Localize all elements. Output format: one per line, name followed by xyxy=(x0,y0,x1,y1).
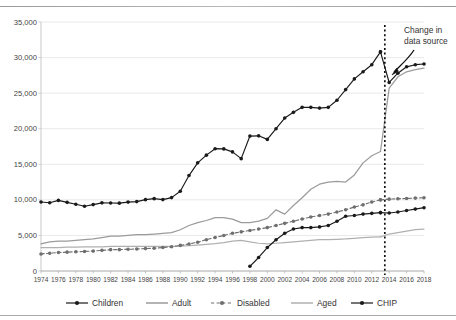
legend-label-disabled[interactable]: Disabled xyxy=(237,298,270,308)
x-tick-label: 2018 xyxy=(417,276,432,283)
series-marker-disabled xyxy=(126,248,130,252)
series-marker-disabled xyxy=(74,250,78,254)
series-marker-chip xyxy=(326,224,330,228)
y-tick-label: 10,000 xyxy=(14,195,37,204)
series-marker-children xyxy=(335,98,339,102)
series-marker-disabled xyxy=(135,247,139,251)
series-marker-children xyxy=(57,199,61,203)
y-tick-label: 20,000 xyxy=(14,124,37,133)
series-marker-disabled xyxy=(292,219,296,223)
series-marker-disabled xyxy=(187,242,191,246)
series-marker-chip xyxy=(335,219,339,223)
series-marker-children xyxy=(118,201,122,205)
series-marker-disabled xyxy=(300,217,304,221)
series-marker-disabled xyxy=(353,205,357,209)
x-tick-label: 1984 xyxy=(121,276,136,283)
x-tick-label: 1990 xyxy=(173,276,188,283)
x-tick-label: 2012 xyxy=(364,276,379,283)
line-chart-canvas: 05,00010,00015,00020,00025,00030,00035,0… xyxy=(0,0,456,320)
series-marker-children xyxy=(161,198,165,202)
series-marker-disabled xyxy=(335,210,339,214)
series-marker-children xyxy=(300,106,304,110)
series-marker-children xyxy=(274,127,278,131)
series-marker-children xyxy=(387,81,391,85)
series-marker-children xyxy=(178,189,182,193)
series-marker-disabled xyxy=(283,222,287,226)
series-marker-children xyxy=(414,63,418,67)
y-tick-label: 25,000 xyxy=(14,89,37,98)
series-marker-children xyxy=(48,201,52,205)
series-marker-chip xyxy=(318,225,322,229)
series-line-disabled xyxy=(41,200,380,254)
series-marker-children xyxy=(292,111,296,115)
legend-swatch-marker-children xyxy=(75,301,79,305)
series-marker-children xyxy=(248,134,252,138)
series-marker-disabled xyxy=(414,196,418,200)
y-tick-label: 5,000 xyxy=(18,231,37,240)
legend-swatch-marker-disabled xyxy=(220,301,224,305)
x-tick-label: 1986 xyxy=(138,276,153,283)
top-divider-rule xyxy=(0,6,456,7)
x-tick-label: 1976 xyxy=(51,276,66,283)
series-line-adult xyxy=(380,68,424,151)
series-marker-children xyxy=(257,134,261,138)
series-marker-disabled xyxy=(48,251,52,255)
x-tick-label: 1978 xyxy=(68,276,83,283)
series-marker-disabled xyxy=(344,208,348,212)
series-marker-chip xyxy=(379,211,383,215)
series-marker-disabled xyxy=(318,214,322,218)
series-marker-children xyxy=(213,147,217,151)
y-tick-label: 0 xyxy=(33,267,37,276)
series-marker-children xyxy=(231,150,235,154)
series-marker-children xyxy=(205,153,209,157)
x-tick-label: 1994 xyxy=(208,276,223,283)
y-tick-label: 30,000 xyxy=(14,53,37,62)
legend-label-chip[interactable]: CHIP xyxy=(377,298,397,308)
series-marker-chip xyxy=(361,212,365,216)
series-marker-children xyxy=(39,200,43,204)
series-marker-disabled xyxy=(91,249,95,253)
series-marker-children xyxy=(144,198,148,202)
x-tick-label: 2004 xyxy=(295,276,310,283)
series-marker-disabled xyxy=(161,246,165,250)
y-tick-label: 35,000 xyxy=(14,18,37,27)
chart-legend: ChildrenAdultDisabledAgedCHIP xyxy=(66,298,397,308)
y-tick-label: 15,000 xyxy=(14,160,37,169)
series-marker-children xyxy=(318,106,322,110)
annotation-layer: Change indata source xyxy=(392,25,448,75)
x-tick-label: 1988 xyxy=(156,276,171,283)
legend-label-children[interactable]: Children xyxy=(92,298,124,308)
annotation-line-1: Change in xyxy=(404,25,443,35)
series-marker-children xyxy=(126,200,130,204)
series-marker-disabled xyxy=(387,197,391,201)
series-marker-disabled xyxy=(396,197,400,201)
series-marker-children xyxy=(379,50,383,54)
series-marker-chip xyxy=(309,226,313,230)
series-marker-children xyxy=(370,63,374,67)
x-tick-label: 1998 xyxy=(243,276,258,283)
series-marker-disabled xyxy=(274,224,278,228)
series-marker-disabled xyxy=(213,236,217,240)
series-marker-children xyxy=(309,106,313,110)
legend-label-aged[interactable]: Aged xyxy=(317,298,337,308)
x-tick-label: 2016 xyxy=(399,276,414,283)
series-marker-children xyxy=(152,197,156,201)
series-marker-disabled xyxy=(370,200,374,204)
series-marker-chip xyxy=(300,226,304,230)
series-marker-disabled xyxy=(109,248,113,252)
series-line-adult xyxy=(41,151,380,243)
series-marker-disabled xyxy=(239,230,243,234)
series-marker-disabled xyxy=(222,234,226,238)
series-marker-chip xyxy=(248,265,252,269)
series-marker-chip xyxy=(414,207,418,211)
y-axis-tick-labels: 05,00010,00015,00020,00025,00030,00035,0… xyxy=(14,18,41,276)
legend-label-adult[interactable]: Adult xyxy=(172,298,192,308)
legend-swatch-marker-chip xyxy=(360,301,364,305)
series-marker-children xyxy=(65,201,69,205)
chart-figure: 05,00010,00015,00020,00025,00030,00035,0… xyxy=(0,0,456,320)
series-marker-chip xyxy=(422,206,426,210)
series-marker-children xyxy=(422,62,426,66)
series-marker-children xyxy=(83,204,87,208)
x-tick-label: 1980 xyxy=(86,276,101,283)
x-tick-label: 2010 xyxy=(347,276,362,283)
